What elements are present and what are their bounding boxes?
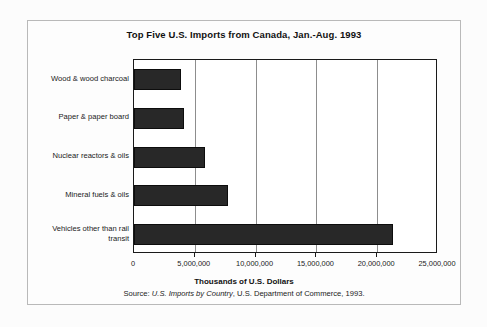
category-label-line: Nuclear reactors & oils (25, 151, 129, 161)
category-label-line: Paper & paper board (25, 112, 129, 122)
category-label: Wood & wood charcoal (25, 74, 129, 84)
source-suffix: , U.S. Department of Commerce, 1993. (233, 289, 365, 298)
source-publication-title: U.S. Imports by Country (152, 289, 233, 298)
x-tick-label: 25,000,000 (419, 259, 456, 268)
y-axis-category-labels: Wood & wood charcoalPaper & paper boardN… (22, 59, 129, 253)
plot-area (133, 59, 437, 253)
tick-mark (194, 253, 195, 257)
bar (134, 185, 228, 206)
x-tick-label: 15,000,000 (297, 259, 334, 268)
tick-mark (376, 253, 377, 257)
category-label: Paper & paper board (25, 112, 129, 122)
x-tick-label: 10,000,000 (236, 259, 273, 268)
x-axis-title: Thousands of U.S. Dollars (27, 277, 461, 286)
category-label: Mineral fuels & oils (25, 190, 129, 200)
bar (134, 224, 393, 245)
category-label: Vehicles other than railtransit (25, 224, 129, 243)
category-label-line: Wood & wood charcoal (25, 74, 129, 84)
tick-mark (255, 253, 256, 257)
x-tick-label: 0 (131, 259, 135, 268)
x-tick-label: 5,000,000 (177, 259, 210, 268)
category-label-line: Mineral fuels & oils (25, 190, 129, 200)
category-label-line: transit (25, 234, 129, 244)
source-note: Source: U.S. Imports by Country, U.S. De… (27, 289, 461, 298)
category-label: Nuclear reactors & oils (25, 151, 129, 161)
x-tick-label: 20,000,000 (358, 259, 395, 268)
bar (134, 108, 184, 129)
chart-figure: Top Five U.S. Imports from Canada, Jan.-… (0, 0, 487, 327)
chart-title: Top Five U.S. Imports from Canada, Jan.-… (27, 29, 461, 40)
x-axis-ticks: 05,000,00010,000,00015,000,00020,000,000… (133, 253, 437, 273)
bar (134, 69, 181, 90)
tick-mark (315, 253, 316, 257)
category-label-line: Vehicles other than rail (25, 224, 129, 234)
source-prefix: Source: (124, 289, 152, 298)
bar (134, 147, 205, 168)
